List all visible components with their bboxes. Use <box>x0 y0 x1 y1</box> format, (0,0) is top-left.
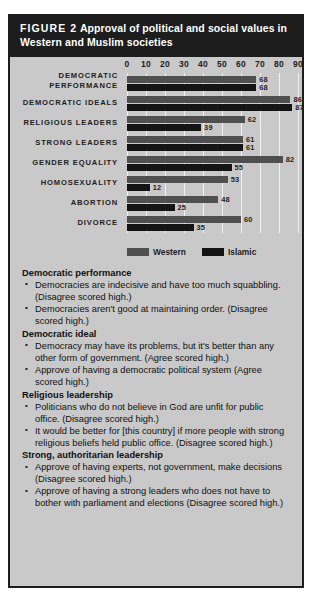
axis-tick-90: 90 <box>293 59 303 69</box>
bar-islamic <box>127 124 201 131</box>
note-bullet: Democracy may have its problems, but it'… <box>24 341 290 365</box>
figure-header: FIGURE 2 Approval of political and socia… <box>10 16 302 57</box>
bar-chart: 0102030405060708090 DEMOCRATICPERFORMANC… <box>10 57 302 263</box>
note-list: Approve of having experts, not governmen… <box>24 462 290 510</box>
axis-tick-30: 30 <box>179 59 189 69</box>
category-label: STRONG LEADERS <box>6 138 118 148</box>
note-bullet: Approve of having experts, not governmen… <box>24 462 290 486</box>
bar-islamic <box>127 144 243 151</box>
bar-value-label: 35 <box>197 224 206 231</box>
bar-value-label: 86 <box>293 96 302 103</box>
axis-tick-50: 50 <box>217 59 227 69</box>
note-bullet: Democracies aren't good at maintaining o… <box>24 304 290 328</box>
bar-value-label: 87 <box>295 104 304 111</box>
bar-islamic <box>127 204 175 211</box>
bar-value-label: 68 <box>259 76 268 83</box>
note-list: Democracies are indecisive and have too … <box>24 280 290 328</box>
bar-western <box>127 136 243 143</box>
bar-value-label: 25 <box>178 204 187 211</box>
bar-islamic <box>127 104 292 111</box>
bar-western <box>127 96 290 103</box>
note-list: Democracy may have its problems, but it'… <box>24 341 290 389</box>
axis-tick-40: 40 <box>198 59 208 69</box>
note-bullet: It would be better for [this country] if… <box>24 426 290 450</box>
bar-value-label: 12 <box>153 184 162 191</box>
note-bullet: Approve of having a strong leaders who d… <box>24 486 290 510</box>
bar-value-label: 60 <box>244 216 253 223</box>
axis-tick-20: 20 <box>160 59 170 69</box>
note-heading: Democratic ideal <box>22 329 290 341</box>
axis-tick-60: 60 <box>236 59 246 69</box>
bar-islamic <box>127 224 194 231</box>
bar-western <box>127 76 256 83</box>
note-bullet: Approve of having a democratic political… <box>24 365 290 389</box>
bar-islamic <box>127 164 232 171</box>
bar-western <box>127 216 241 223</box>
category-label: DEMOCRATIC IDEALS <box>6 98 118 108</box>
legend-swatch <box>202 248 224 256</box>
legend-label: Islamic <box>228 247 256 257</box>
axis-tick-80: 80 <box>274 59 284 69</box>
axis-tick-70: 70 <box>255 59 265 69</box>
chart-legend: WesternIslamic <box>127 247 256 257</box>
plot-area: DEMOCRATICPERFORMANCE6868DEMOCRATIC IDEA… <box>127 73 294 233</box>
category-label: DIVORCE <box>6 218 118 228</box>
category-label: RELIGIOUS LEADERS <box>6 118 118 128</box>
bar-value-label: 61 <box>246 136 255 143</box>
legend-item-western: Western <box>127 247 186 257</box>
category-label: ABORTION <box>6 198 118 208</box>
bar-value-label: 61 <box>246 144 255 151</box>
bar-islamic <box>127 84 256 91</box>
axis-tick-0: 0 <box>125 59 130 69</box>
note-list: Politicians who do not believe in God ar… <box>24 402 290 450</box>
category-label: HOMOSEXUALITY <box>6 178 118 188</box>
figure-number: FIGURE 2 <box>20 22 77 34</box>
note-heading: Strong, authoritarian leadership <box>22 450 290 462</box>
category-label: GENDER EQUALITY <box>6 158 118 168</box>
category-label: DEMOCRATICPERFORMANCE <box>6 71 118 91</box>
legend-item-islamic: Islamic <box>202 247 256 257</box>
note-bullet: Democracies are indecisive and have too … <box>24 280 290 304</box>
bar-western <box>127 116 245 123</box>
bar-value-label: 82 <box>286 156 295 163</box>
bar-western <box>127 176 228 183</box>
legend-label: Western <box>153 247 186 257</box>
bar-value-label: 48 <box>221 196 230 203</box>
bar-value-label: 62 <box>248 116 257 123</box>
bar-western <box>127 156 283 163</box>
bar-value-label: 39 <box>204 124 213 131</box>
bar-western <box>127 196 218 203</box>
legend-swatch <box>127 248 149 256</box>
note-heading: Democratic performance <box>22 268 290 280</box>
bar-value-label: 55 <box>235 164 244 171</box>
figure-container: FIGURE 2 Approval of political and socia… <box>8 14 304 588</box>
note-heading: Religious leadership <box>22 390 290 402</box>
bar-islamic <box>127 184 150 191</box>
axis-tick-10: 10 <box>141 59 151 69</box>
bar-value-label: 53 <box>231 176 240 183</box>
bar-value-label: 68 <box>259 84 268 91</box>
notes-section: Democratic performanceDemocracies are in… <box>10 263 302 519</box>
note-bullet: Politicians who do not believe in God ar… <box>24 402 290 426</box>
